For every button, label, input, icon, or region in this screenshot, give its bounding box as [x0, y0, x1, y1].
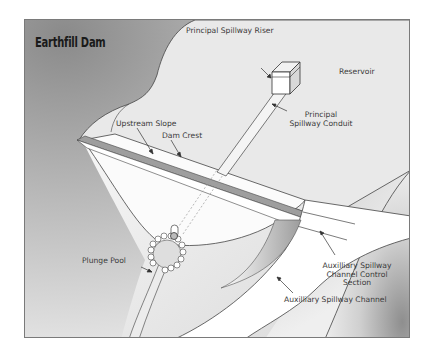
diagram-title: Earthfill Dam — [35, 34, 105, 50]
label-principal-conduit-line2: Spillway Conduit — [281, 120, 361, 129]
label-upstream-slope: Upstream Slope — [116, 120, 176, 129]
label-aux-control-line3: Section — [310, 279, 404, 288]
label-plunge-pool: Plunge Pool — [82, 257, 126, 266]
label-dam-crest: Dam Crest — [162, 132, 202, 141]
label-auxiliary-spillway-channel: Auxilliary Spillway Channel — [284, 296, 387, 305]
label-principal-spillway-riser: Principal Spillway Riser — [186, 27, 274, 36]
conduit-outlet-ring — [171, 233, 178, 240]
label-reservoir: Reservoir — [339, 68, 375, 77]
label-principal-spillway-conduit: Principal Spillway Conduit — [281, 111, 361, 128]
diagram-frame: Earthfill Dam Principal Spillway Riser R… — [24, 19, 410, 338]
label-auxiliary-control-section: Auxilliary Spillway Channel Control Sect… — [310, 262, 404, 288]
